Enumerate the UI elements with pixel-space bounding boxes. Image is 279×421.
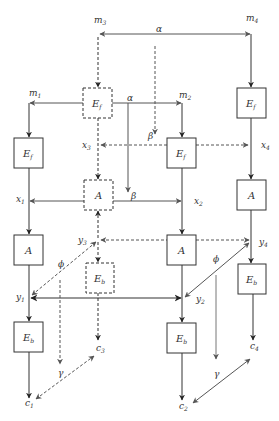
- label-phi-right: ϕ: [213, 254, 219, 264]
- label-c4: c4: [250, 341, 259, 352]
- label-beta-solid: β: [130, 191, 136, 201]
- box-a3: A: [84, 180, 113, 210]
- box-a2: A: [167, 235, 196, 265]
- label-y4: y4: [258, 237, 268, 248]
- label-c1: c1: [25, 398, 34, 409]
- svg-text:A: A: [247, 190, 255, 201]
- label-gamma-right: γ: [214, 369, 220, 379]
- gamma-right-edge: [193, 359, 250, 403]
- label-x1: x1: [16, 194, 25, 205]
- node-labels: m3 m4 m1 m2 x3 x4 x1 x2 y3 y4 y1 y2 c3 c…: [15, 13, 270, 412]
- box-eb3: Eb: [86, 263, 114, 293]
- box-a4: A: [237, 180, 266, 210]
- label-x3: x3: [82, 140, 91, 151]
- box-eb4: Eb: [238, 264, 266, 294]
- box-eb1: Eb: [14, 322, 43, 352]
- label-c3: c3: [96, 343, 105, 354]
- box-ef1: Ef: [14, 138, 43, 168]
- box-eb2: Eb: [167, 323, 196, 353]
- label-alpha-mid: α: [127, 93, 133, 103]
- box-ef4: Ef: [237, 88, 266, 118]
- label-y3: y3: [77, 235, 87, 246]
- label-c2: c2: [179, 401, 188, 412]
- label-phi-left: ϕ: [58, 259, 64, 269]
- label-x2: x2: [194, 196, 203, 207]
- gamma-left-edge: [36, 356, 94, 399]
- label-y2: y2: [195, 294, 205, 305]
- box-ef2: Ef: [167, 138, 196, 168]
- label-alpha-top: α: [156, 24, 162, 34]
- label-y1: y1: [15, 292, 25, 303]
- label-gamma-left: γ: [58, 368, 64, 378]
- diagram-canvas: Ef Ef Ef Ef A A A A: [0, 0, 279, 421]
- svg-text:A: A: [94, 190, 102, 201]
- label-x4: x4: [261, 140, 270, 151]
- svg-text:A: A: [177, 245, 185, 256]
- box-a1: A: [14, 235, 43, 265]
- label-m1: m1: [29, 88, 41, 99]
- label-m2: m2: [179, 90, 192, 101]
- boxes: Ef Ef Ef Ef A A A A: [14, 88, 266, 353]
- box-ef3: Ef: [83, 88, 112, 118]
- label-m3: m3: [94, 15, 107, 26]
- label-m4: m4: [246, 13, 259, 24]
- label-beta-dashed: β: [147, 131, 153, 141]
- svg-text:A: A: [24, 245, 32, 256]
- edges: [29, 34, 253, 403]
